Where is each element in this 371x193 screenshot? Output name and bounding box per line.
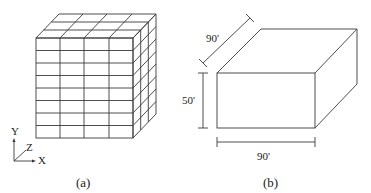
- axis-label-x: X: [38, 154, 46, 166]
- figure-canvas: Y Z X (a) 90' 50' 90' (b): [0, 0, 371, 193]
- axis-label-z: Z: [26, 141, 33, 153]
- dimension-height-label: 50': [182, 94, 195, 106]
- mesh-cube: [36, 14, 156, 138]
- caption-b: (b): [263, 175, 278, 191]
- caption-a: (a): [76, 175, 90, 191]
- box-volume: [217, 29, 357, 128]
- dimension-depth-label: 90': [206, 32, 219, 44]
- dimension-width-label: 90': [257, 150, 270, 162]
- axis-label-y: Y: [11, 125, 19, 137]
